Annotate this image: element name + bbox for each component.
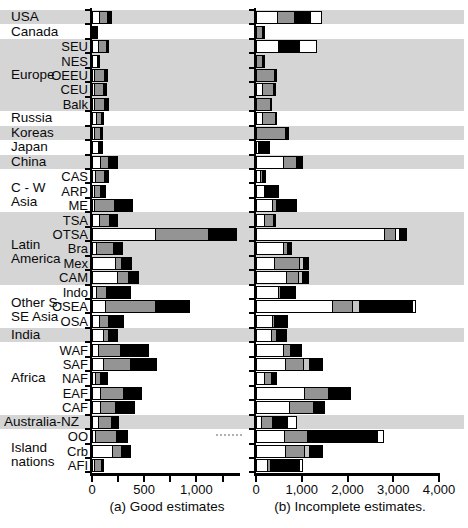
bar-Indo [256,286,296,299]
bar-segment-white [257,359,285,370]
category-tick [249,240,254,242]
row-sublabel: Bra [30,241,88,256]
bar-segment-gray [96,243,113,254]
category-tick [249,385,254,387]
bar-segment-gray [155,229,208,240]
bar-segment-black [108,157,117,168]
x-axis-tick [143,476,145,482]
row-sublabel: OTSA [30,227,88,242]
bar-OSEA [92,300,190,313]
bar-segment-black [294,12,310,23]
category-tick [249,428,254,430]
bar-segment-white [93,258,115,269]
bar-segment-black [274,316,286,327]
bar-segment-white [257,301,332,312]
bar-segment-black [107,12,111,23]
bar-segment-white [310,12,321,23]
stacked-bar-figure: USACanadaEuropeSEUNESOEEUCEUBalkRussiaKo… [0,0,468,528]
bar-segment-gray [257,128,285,139]
bar-segment-black [101,460,103,471]
x-tick-label: 0 [70,482,114,497]
bar-segment-black [285,128,287,139]
group-label: USA [11,10,39,24]
bar-Koreas [256,127,289,140]
group-band [0,126,464,140]
x-axis-tick [195,476,197,482]
category-tick [249,211,254,213]
x-tick-label: 0 [234,482,278,497]
bar-NAF [256,372,277,385]
group-label: Russia [11,111,52,125]
bar-segment-black [155,301,188,312]
bar-segment-white [257,272,286,283]
bar-segment-black [108,316,124,327]
category-tick [85,356,90,358]
category-tick [249,110,254,112]
bar-segment-gray [100,388,123,399]
bar-CAS [256,170,266,183]
bar-segment-gray [105,301,155,312]
bar-segment-black [116,431,127,442]
category-tick [85,81,90,83]
bar-segment-black [276,330,286,341]
x-tick-label: 1,000 [280,482,324,497]
bar-segment-white [93,157,100,168]
x-axis-tick [117,476,119,482]
bar-segment-gray [95,431,116,442]
bar-NES [92,55,100,68]
bar-Canada [92,26,98,39]
bar-segment-white [257,316,272,327]
bar-Canada [256,26,265,39]
bar-segment-gray [98,417,111,428]
bar-segment-white [257,12,277,23]
row-sublabel: OSEA [30,299,88,314]
bar-Crb [92,445,131,458]
bar-CAF [92,401,135,414]
bar-segment-black [130,359,156,370]
bar-segment-gray [261,417,272,428]
bar-segment-gray [103,359,130,370]
category-tick [85,110,90,112]
category-tick [249,226,254,228]
bar-segment-white [257,258,274,269]
row-sublabel: ARP [30,184,88,199]
bar-segment-gray [94,200,114,211]
bar-segment-gray [284,431,306,442]
group-label: China [11,155,46,169]
bar-Mex [256,257,309,270]
bar-segment-gray [283,157,295,168]
bar-segment-lightgray [352,301,359,312]
bar-segment-black [359,301,412,312]
bar-segment-gray [264,215,273,226]
category-tick [249,341,254,343]
bar-segment-white [257,186,264,197]
category-tick [85,38,90,40]
category-tick [85,52,90,54]
row-sublabel: TSA [30,213,88,228]
bar-OEEU [92,69,108,82]
bar-segment-gray [262,84,273,95]
bar-segment-gray [94,70,104,81]
row-sublabel: OEEU [30,68,88,83]
bar-segment-black [100,186,105,197]
bar-CAS [92,170,109,183]
bar-ME [92,199,133,212]
bar-segment-white [257,229,384,240]
category-tick [85,443,90,445]
group-label: Australia-NZ [4,415,79,429]
category-tick [249,255,254,257]
bar-segment-gray [274,258,299,269]
bar-CAF [256,401,325,414]
bar-NAF [92,372,108,385]
bar-segment-black [258,142,269,153]
bar-segment-gray [285,359,303,370]
row-sublabel: AFI [30,458,88,473]
category-tick [85,211,90,213]
category-tick [249,182,254,184]
bar-OEEU [256,69,277,82]
bar-segment-black [271,373,276,384]
bar-China [256,156,303,169]
category-tick [249,168,254,170]
bar-SEU [92,40,109,53]
category-tick [85,182,90,184]
